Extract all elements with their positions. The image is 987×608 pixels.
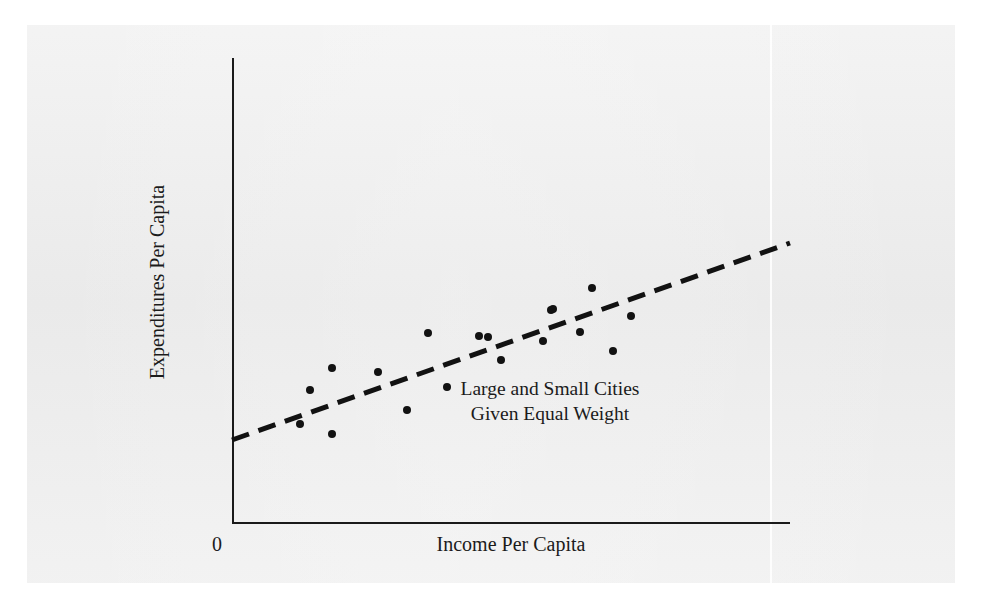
annotation-line-2: Given Equal Weight [400, 401, 700, 426]
data-point [475, 332, 483, 340]
annotation-line-1: Large and Small Cities [400, 376, 700, 401]
data-point [609, 347, 617, 355]
data-point [484, 333, 492, 341]
data-point [549, 305, 557, 313]
data-point [576, 328, 584, 336]
data-point [497, 356, 505, 364]
chart-annotation: Large and Small Cities Given Equal Weigh… [400, 376, 700, 426]
x-axis-label: Income Per Capita [361, 533, 661, 556]
data-point [328, 430, 336, 438]
y-axis-label: Expenditures Per Capita [146, 132, 169, 432]
data-point [374, 368, 382, 376]
data-point [328, 364, 336, 372]
scatter-plot: Expenditures Per Capita Income Per Capit… [0, 0, 987, 608]
origin-tick-label: 0 [200, 533, 234, 556]
data-point [424, 329, 432, 337]
data-point [588, 284, 596, 292]
data-point [539, 337, 547, 345]
data-point [296, 420, 304, 428]
data-point [627, 312, 635, 320]
figure-screenshot: Expenditures Per Capita Income Per Capit… [0, 0, 987, 608]
data-point [306, 386, 314, 394]
